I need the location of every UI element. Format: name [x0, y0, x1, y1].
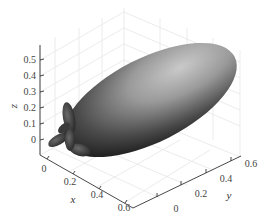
svg-text:0.2: 0.2: [64, 176, 77, 187]
x-axis-label: x: [70, 193, 76, 205]
svg-text:0.1: 0.1: [24, 118, 37, 129]
svg-text:0: 0: [31, 134, 36, 145]
svg-text:0.4: 0.4: [91, 189, 104, 200]
z-axis-label: z: [7, 103, 19, 109]
svg-text:0: 0: [42, 163, 47, 174]
y-tick-labels: 0 0.2 0.4 0.6: [174, 158, 258, 214]
svg-text:0.2: 0.2: [195, 188, 208, 199]
svg-text:0.2: 0.2: [24, 102, 37, 113]
svg-text:0: 0: [174, 203, 179, 214]
radiation-pattern-3d-plot: 0.5 0.4 0.3 0.2 0.1 0 z 0 0.2 0.4 0.6 x …: [0, 0, 266, 219]
y-axis-label: y: [226, 189, 232, 201]
svg-text:0.4: 0.4: [220, 173, 233, 184]
svg-text:0.5: 0.5: [24, 54, 37, 65]
x-axis-line: [40, 155, 133, 208]
svg-text:0.3: 0.3: [24, 86, 37, 97]
x-tick-labels: 0 0.2 0.4 0.6: [42, 163, 131, 213]
main-lobe: [46, 19, 253, 180]
svg-text:0.4: 0.4: [24, 70, 37, 81]
svg-text:0.6: 0.6: [118, 202, 131, 213]
z-tick-labels: 0.5 0.4 0.3 0.2 0.1 0: [24, 54, 37, 145]
svg-text:0.6: 0.6: [245, 158, 258, 169]
